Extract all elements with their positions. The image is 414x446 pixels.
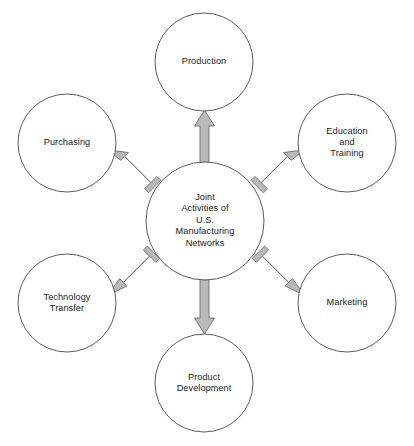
- arrow-to-purchasing: [108, 150, 161, 193]
- node-circle-technology-transfer[interactable]: [18, 254, 116, 352]
- node-circle-production[interactable]: [155, 13, 253, 111]
- node-circle-hub[interactable]: [146, 162, 264, 280]
- radial-diagram: Joint Activities of U.S. Manufacturing N…: [0, 0, 414, 446]
- diagram-canvas: [0, 0, 414, 446]
- node-circle-education-and-training[interactable]: [298, 94, 396, 192]
- node-circle-purchasing[interactable]: [18, 94, 116, 192]
- arrow-to-production: [195, 110, 215, 163]
- arrow-to-education-and-training: [251, 150, 304, 193]
- arrow-to-technology-transfer: [108, 246, 160, 295]
- node-circles-group: [18, 13, 396, 432]
- node-circle-marketing[interactable]: [298, 254, 396, 352]
- arrow-to-marketing: [252, 246, 304, 295]
- node-circle-product-development[interactable]: [155, 334, 253, 432]
- arrow-to-product-development: [195, 279, 215, 334]
